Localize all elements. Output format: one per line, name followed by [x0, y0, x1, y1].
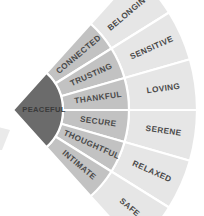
emotion-wheel-diagram: CONNECTEDBELONGINGTRUSTINGSENSITIVETHANK…: [0, 0, 204, 216]
emotion-wheel-svg: CONNECTEDBELONGINGTRUSTINGSENSITIVETHANK…: [0, 0, 204, 216]
core-wedge-label: PEACEFUL: [22, 105, 65, 114]
